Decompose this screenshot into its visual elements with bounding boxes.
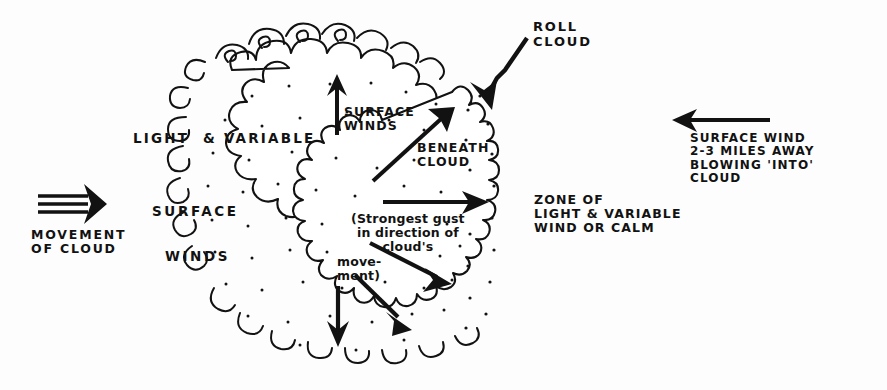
label-movement-parenthetical: move- ment) bbox=[337, 255, 381, 283]
label-winds-left: WINDS bbox=[165, 249, 230, 264]
label-roll-cloud: ROLL CLOUD bbox=[533, 20, 592, 49]
label-beneath-cloud: BENEATH CLOUD bbox=[417, 141, 489, 169]
label-surface-left: SURFACE bbox=[152, 204, 239, 219]
label-movement-of-cloud: MOVEMENT OF CLOUD bbox=[31, 228, 126, 256]
label-strongest-gust: (Strongest gust in direction of cloud's bbox=[351, 212, 465, 254]
label-light-and-variable: LIGHT & VARIABLE bbox=[133, 131, 315, 146]
cloud-diagram-artwork bbox=[0, 0, 887, 390]
diagram-canvas: LIGHT & VARIABLE SURFACE WINDS MOVEMENT … bbox=[0, 0, 887, 390]
cloud-left-scallops bbox=[167, 60, 207, 270]
surface-wind-inflow-arrow bbox=[672, 109, 770, 132]
roll-cloud-pointer-arrow bbox=[470, 38, 527, 110]
movement-of-cloud-arrow bbox=[38, 184, 107, 224]
label-zone-of-light-variable-wind: ZONE OF LIGHT & VARIABLE WIND OR CALM bbox=[534, 193, 682, 235]
label-surface-wind-far-field: SURFACE WIND 2-3 MILES AWAY BLOWING 'INT… bbox=[690, 132, 815, 186]
label-surface-winds: SURFACE WINDS bbox=[344, 105, 415, 133]
